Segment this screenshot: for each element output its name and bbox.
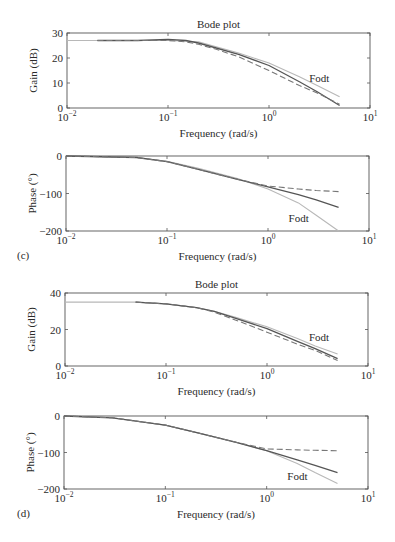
y-axis-label: Phase (°) — [24, 432, 37, 472]
y-tick-label: 0 — [55, 410, 61, 422]
x-tick-label: 10−1 — [157, 367, 176, 381]
y-tick-label: 30 — [52, 27, 64, 39]
y-axis-label: Gain (dB) — [27, 48, 40, 93]
series-dashed — [66, 156, 339, 192]
y-tick-label: 10 — [52, 77, 64, 89]
chart-c-gain: 010203010−210−1100101FodtBode plotFreque… — [27, 18, 378, 140]
x-tick-label: 10−1 — [159, 109, 178, 123]
x-tick-label: 101 — [362, 232, 377, 246]
x-tick-label: 10−1 — [156, 490, 175, 504]
x-tick-label: 101 — [363, 109, 378, 123]
x-tick-label: 10−2 — [55, 490, 74, 504]
x-axis-label: Frequency (rad/s) — [179, 250, 257, 263]
series-fodt — [65, 302, 338, 354]
series-dashed — [97, 41, 339, 105]
panel-label: (d) — [17, 507, 30, 520]
fodt-annotation: Fodt — [309, 72, 329, 84]
x-tick-label: 10−2 — [57, 232, 76, 246]
plot-area — [64, 416, 368, 489]
y-tick-label: 0 — [57, 150, 63, 162]
chart-title: Bode plot — [195, 278, 238, 290]
x-tick-label: 101 — [361, 490, 376, 504]
series-fodt — [67, 41, 340, 97]
x-tick-label: 101 — [361, 367, 376, 381]
series-solid — [97, 39, 339, 105]
y-tick-label: −100 — [37, 447, 60, 459]
series-solid — [136, 302, 338, 359]
x-axis-label: Frequency (rad/s) — [178, 385, 256, 398]
fodt-annotation: Fodt — [287, 470, 307, 482]
series-solid — [64, 416, 338, 473]
y-tick-label: 20 — [52, 52, 64, 64]
y-axis-label: Gain (dB) — [25, 307, 38, 352]
series-solid — [66, 156, 339, 207]
chart-d-gain: 0204010−210−1100101FodtBode plotFrequenc… — [25, 278, 376, 398]
chart-c-phase: −200−100010−210−1100101FodtFrequency (ra… — [17, 150, 377, 263]
y-axis-label: Phase (°) — [26, 173, 39, 213]
x-tick-label: 10−2 — [58, 109, 77, 123]
x-tick-label: 10−2 — [56, 367, 75, 381]
panel-label: (c) — [17, 249, 30, 262]
x-tick-label: 100 — [262, 109, 277, 123]
x-axis-label: Frequency (rad/s) — [177, 508, 255, 521]
fodt-annotation: Fodt — [289, 212, 309, 224]
series-dashed — [64, 416, 338, 451]
chart-title: Bode plot — [197, 18, 240, 30]
y-tick-label: −100 — [39, 188, 62, 200]
x-tick-label: 100 — [261, 232, 276, 246]
y-tick-label: 40 — [50, 287, 62, 299]
y-tick-label: 20 — [50, 324, 62, 336]
chart-d-phase: −200−100010−210−1100101FodtFrequency (ra… — [17, 410, 376, 521]
x-axis-label: Frequency (rad/s) — [180, 127, 258, 140]
x-tick-label: 100 — [259, 490, 274, 504]
x-tick-label: 100 — [260, 367, 275, 381]
bode-figure: 010203010−210−1100101FodtBode plotFreque… — [0, 0, 395, 542]
plot-area — [66, 156, 369, 231]
series-dashed — [136, 302, 338, 360]
fodt-annotation: Fodt — [309, 331, 329, 343]
x-tick-label: 10−1 — [158, 232, 177, 246]
plot-area — [65, 293, 368, 366]
